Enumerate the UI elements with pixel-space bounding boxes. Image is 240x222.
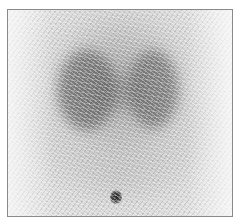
scan-image-frame	[7, 9, 233, 217]
scan-edge-fade	[8, 10, 232, 216]
